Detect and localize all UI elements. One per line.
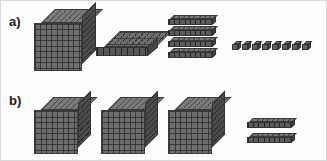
- cube-front-face: [168, 110, 212, 154]
- rod-side-face: [291, 118, 295, 128]
- ten-rod-block: [247, 133, 298, 143]
- thousand-cube-block: [34, 97, 91, 154]
- cube-front-face: [101, 110, 145, 154]
- cube-front-face: [34, 110, 78, 154]
- rod-front-face: [247, 122, 291, 128]
- thousand-cube-block: [101, 97, 158, 154]
- block-row-b: [1, 1, 326, 160]
- thousand-cube-block: [168, 97, 225, 154]
- rod-side-face: [291, 133, 295, 143]
- worksheet-canvas: a)b): [0, 0, 327, 161]
- rod-front-face: [247, 137, 291, 143]
- ten-rod-block: [247, 118, 298, 128]
